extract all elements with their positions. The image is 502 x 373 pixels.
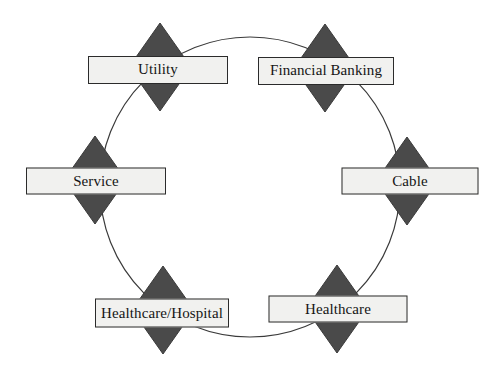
- node-label-service: Service: [73, 173, 119, 189]
- node-label-utility: Utility: [138, 62, 178, 78]
- node-healthcare[interactable]: Healthcare: [306, 265, 368, 353]
- node-healthcare-hospital[interactable]: Healthcare/Hospital: [132, 266, 194, 354]
- node-cable[interactable]: Cable: [376, 137, 438, 225]
- node-service[interactable]: Service: [64, 136, 126, 224]
- node-label-cable: Cable: [392, 173, 428, 189]
- node-label-healthcare: Healthcare: [305, 301, 371, 317]
- node-label-box-financial-banking[interactable]: Financial Banking: [258, 57, 394, 85]
- node-label-healthcare-hospital: Healthcare/Hospital: [101, 305, 223, 321]
- node-label-box-healthcare-hospital[interactable]: Healthcare/Hospital: [95, 299, 229, 328]
- node-utility[interactable]: Utility: [129, 23, 191, 111]
- node-label-box-utility[interactable]: Utility: [88, 56, 228, 84]
- node-label-box-cable[interactable]: Cable: [342, 168, 479, 195]
- node-financial-banking[interactable]: Financial Banking: [294, 24, 356, 112]
- node-label-financial-banking: Financial Banking: [270, 63, 382, 79]
- node-label-box-healthcare[interactable]: Healthcare: [269, 296, 408, 323]
- node-label-box-service[interactable]: Service: [26, 168, 166, 195]
- diagram-canvas: Utility Financial Banking Cable: [0, 0, 502, 373]
